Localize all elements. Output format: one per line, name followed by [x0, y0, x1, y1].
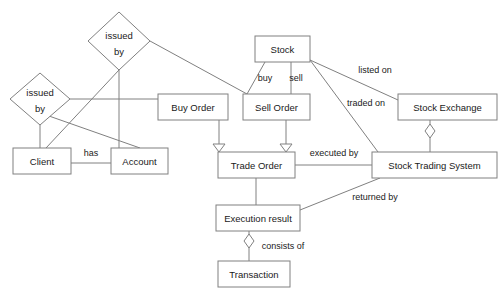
- entity-transaction[interactable]: Transaction: [218, 261, 290, 287]
- entity-account[interactable]: Account: [111, 148, 168, 174]
- edge-label-listed-on: listed on: [358, 65, 392, 75]
- aggregation-diamond-stock-exchange: [425, 124, 435, 138]
- generalization-arrow-buy-order: [213, 144, 225, 152]
- entity-label-buy-order: Buy Order: [171, 102, 214, 113]
- relationship-issued-by-left[interactable]: issued by: [10, 73, 70, 125]
- entity-label-stock: Stock: [271, 44, 295, 55]
- edge-label-has: has: [84, 148, 99, 158]
- entity-label-stock-exchange: Stock Exchange: [413, 102, 482, 113]
- diamond-shape-issued-by-top: [88, 12, 150, 70]
- edge-label-consists-of: consists of: [262, 241, 305, 251]
- relationship-issued-by-top[interactable]: issued by: [88, 12, 150, 70]
- relationship-layer: issued by issued by: [10, 12, 150, 125]
- entity-execution-result[interactable]: Execution result: [216, 205, 300, 231]
- generalization-arrow-sell-order: [280, 144, 292, 152]
- entity-sell-order[interactable]: Sell Order: [243, 94, 310, 120]
- entity-stock-trading-system[interactable]: Stock Trading System: [372, 152, 497, 178]
- relationship-label-issued-by-left-line2: by: [35, 103, 45, 114]
- entity-label-stock-trading-system: Stock Trading System: [388, 160, 480, 171]
- edge-label-buy: buy: [258, 73, 273, 83]
- entity-stock[interactable]: Stock: [255, 36, 310, 62]
- edge-issued-by-left-account: [49, 116, 140, 148]
- entity-label-sell-order: Sell Order: [255, 102, 298, 113]
- entity-buy-order[interactable]: Buy Order: [158, 94, 228, 120]
- entity-label-execution-result: Execution result: [224, 213, 292, 224]
- entity-trade-order[interactable]: Trade Order: [218, 152, 295, 178]
- entity-stock-exchange[interactable]: Stock Exchange: [398, 94, 497, 120]
- diamond-shape-issued-by-left: [10, 73, 70, 125]
- entity-layer: Client Account Stock Buy Order Sell Orde…: [13, 36, 497, 287]
- entity-label-transaction: Transaction: [229, 269, 278, 280]
- entity-label-client: Client: [30, 156, 55, 167]
- aggregation-diamond-execution-result: [244, 234, 254, 248]
- edge-label-traded-on: traded on: [347, 98, 385, 108]
- edge-label-executed-by: executed by: [310, 148, 359, 158]
- edge-label-returned-by: returned by: [352, 192, 398, 202]
- edge-issued-by-top-sell-order: [150, 41, 247, 94]
- relationship-label-issued-by-top-line2: by: [114, 46, 124, 57]
- entity-label-trade-order: Trade Order: [231, 160, 282, 171]
- entity-client[interactable]: Client: [13, 148, 71, 174]
- edge-label-sell: sell: [289, 73, 303, 83]
- entity-label-account: Account: [122, 156, 157, 167]
- relationship-label-issued-by-left-line1: issued: [26, 87, 53, 98]
- relationship-label-issued-by-top-line1: issued: [105, 30, 132, 41]
- er-diagram-canvas: issued by issued by Client Account: [0, 0, 499, 299]
